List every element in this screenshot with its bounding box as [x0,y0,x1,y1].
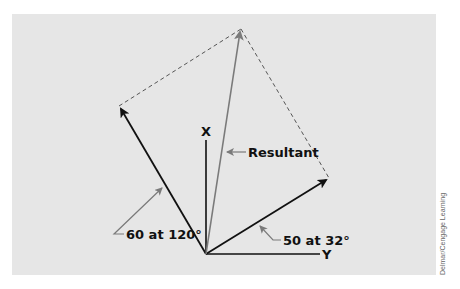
x-axis-label: X [201,124,211,139]
resultant-vector [206,32,240,254]
vector-diagram: X Y Resultant 60 at 120° 50 at 32° [0,0,460,289]
v2-label: 50 at 32° [283,233,350,248]
y-axis-label: Y [321,247,332,262]
credit-text: Delmar/Cengage Learning [439,193,446,275]
v2-leader [260,226,281,240]
resultant-label: Resultant [248,145,319,160]
v1-label: 60 at 120° [126,227,202,242]
dashed-side-left [119,29,241,106]
